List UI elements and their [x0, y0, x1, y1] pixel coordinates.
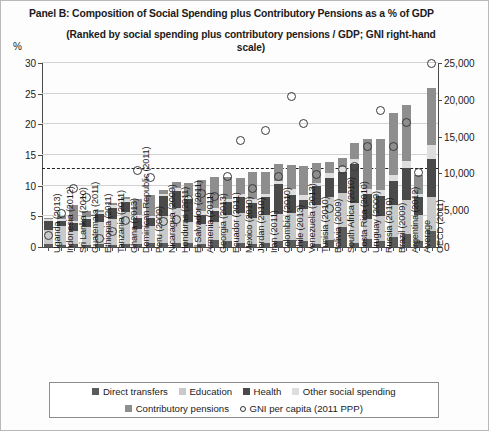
- legend-item[interactable]: Contributory pensions: [125, 403, 229, 414]
- x-axis-category-label: South Africa (2010): [346, 177, 356, 253]
- x-axis-category-label: Bolivia (2009): [333, 199, 343, 253]
- gni-per-capita-marker[interactable]: [223, 172, 232, 181]
- y-axis-right-tick-label: 10,000: [444, 168, 488, 179]
- x-axis-tick-mark: [240, 247, 241, 251]
- x-axis-tick-mark: [291, 247, 292, 251]
- x-axis-tick-mark: [266, 247, 267, 251]
- chart-subtitle: (Ranked by social spending plus contribu…: [61, 28, 441, 54]
- x-axis-tick-mark: [227, 247, 228, 251]
- x-axis-category-label: Argentina (2012): [410, 187, 420, 253]
- bar-segment: [287, 165, 296, 189]
- bar-segment: [325, 173, 334, 178]
- x-axis-category-label: Tunisia (2010): [320, 197, 330, 253]
- bar-segment: [402, 105, 411, 161]
- gridline: [42, 62, 438, 63]
- x-axis-tick-mark: [278, 247, 279, 251]
- gridline: [42, 93, 438, 94]
- x-axis-tick-mark: [48, 247, 49, 251]
- bar-segment: [261, 172, 270, 194]
- y-axis-left-tick-label: 15: [10, 150, 36, 161]
- gni-per-capita-marker[interactable]: [350, 162, 359, 171]
- x-axis-category-label: Armenia (2011): [205, 192, 215, 253]
- x-axis-tick-mark: [406, 247, 407, 251]
- y-axis-unit-label: %: [13, 41, 22, 52]
- legend-item[interactable]: GNI per capita (2011 PPP): [240, 403, 363, 414]
- x-axis-tick-mark: [304, 247, 305, 251]
- y-axis-right-tick-label: 15,000: [444, 131, 488, 142]
- x-axis-category-label: Uruguay (2009): [371, 191, 381, 253]
- x-axis-tick-mark: [163, 247, 164, 251]
- gni-per-capita-marker[interactable]: [274, 172, 283, 181]
- x-axis-tick-mark: [342, 247, 343, 251]
- x-axis-category-label: Mexico (2010): [244, 197, 254, 253]
- gni-per-capita-marker[interactable]: [261, 126, 270, 135]
- y-axis-left-tick-label: 5: [10, 211, 36, 222]
- bar-segment: [427, 145, 436, 158]
- y-axis-right-tick-mark: [438, 173, 442, 174]
- x-axis-tick-mark: [151, 247, 152, 251]
- x-axis-tick-mark: [432, 247, 433, 251]
- y-axis-right-tick-label: 25,000: [444, 58, 488, 69]
- y-axis-left-tick-mark: [38, 247, 42, 248]
- legend-square-icon: [179, 388, 186, 395]
- y-axis-left-tick-mark: [38, 124, 42, 125]
- x-axis-tick-mark: [381, 247, 382, 251]
- x-axis-tick-mark: [355, 247, 356, 251]
- x-axis-category-label: Jordan (2010): [256, 198, 266, 253]
- x-axis-tick-mark: [368, 247, 369, 251]
- y-axis-left-tick-label: 30: [10, 58, 36, 69]
- legend-item[interactable]: Direct transfers: [92, 386, 168, 397]
- x-axis-tick-mark: [202, 247, 203, 251]
- chart-legend: Direct transfersEducationHealthOther soc…: [49, 382, 439, 418]
- x-axis-category-label: Brazil (2009): [397, 203, 407, 253]
- gni-per-capita-marker[interactable]: [299, 119, 308, 128]
- x-axis-category-label: Sri Lanka (2010): [78, 187, 88, 253]
- x-axis-tick-mark: [189, 247, 190, 251]
- bar-segment: [350, 143, 359, 158]
- x-axis-tick-mark: [61, 247, 62, 251]
- y-axis-left-tick-label: 20: [10, 119, 36, 130]
- y-axis-left-tick-label: 10: [10, 180, 36, 191]
- x-axis-tick-mark: [87, 247, 88, 251]
- gridline: [42, 123, 438, 124]
- bar-segment: [325, 162, 334, 173]
- y-axis-right-tick-mark: [438, 137, 442, 138]
- legend-item-label: Direct transfers: [103, 386, 168, 397]
- y-axis-right-tick-label: 20,000: [444, 94, 488, 105]
- x-axis-category-label: Ghana (2013): [129, 198, 139, 253]
- chart-frame: Panel B: Composition of Social Spending …: [0, 0, 489, 431]
- bar-segment: [325, 178, 334, 198]
- x-axis-category-label: Tanzania (2011): [116, 190, 126, 253]
- x-axis-tick-mark: [214, 247, 215, 251]
- x-axis-category-label: Russia (2010): [384, 198, 394, 253]
- x-axis-category-label: El Salvador (2011): [193, 180, 203, 253]
- gni-per-capita-marker[interactable]: [236, 136, 245, 145]
- x-axis-category-label: Uganda (2013): [52, 194, 62, 253]
- y-axis-left-tick-label: 25: [10, 88, 36, 99]
- legend-item[interactable]: Other social spending: [292, 386, 395, 397]
- x-axis-category-label: Costa Rica (2010): [359, 181, 369, 253]
- legend-square-icon: [243, 388, 250, 395]
- x-axis-category-label: Dominican Republic (2011): [141, 147, 151, 253]
- gni-per-capita-marker[interactable]: [248, 184, 257, 193]
- x-axis-category-label: Ethiopia (2011): [103, 194, 113, 253]
- x-axis-tick-mark: [253, 247, 254, 251]
- bar-segment: [389, 175, 398, 181]
- gni-per-capita-marker[interactable]: [376, 106, 385, 115]
- x-axis-category-label: Venezuela (2013): [307, 183, 317, 253]
- gni-per-capita-marker[interactable]: [338, 165, 347, 174]
- x-axis-category-label: Guatemala (2011): [90, 182, 100, 253]
- y-axis-left-tick-mark: [38, 216, 42, 217]
- y-axis-right-tick-mark: [438, 100, 442, 101]
- gni-per-capita-marker[interactable]: [402, 118, 411, 127]
- gni-per-capita-marker[interactable]: [287, 92, 296, 101]
- x-axis-tick-mark: [112, 247, 113, 251]
- y-axis-right-tick-label: 0: [444, 242, 488, 253]
- legend-item[interactable]: Education: [179, 386, 232, 397]
- legend-item[interactable]: Health: [243, 386, 281, 397]
- y-axis-right-tick-label: 5,000: [444, 205, 488, 216]
- legend-item-label: Other social spending: [303, 386, 396, 397]
- x-axis-category-label: Colombia (2010): [282, 187, 292, 253]
- gni-per-capita-marker[interactable]: [427, 59, 436, 68]
- y-axis-left-tick-label: 0: [10, 242, 36, 253]
